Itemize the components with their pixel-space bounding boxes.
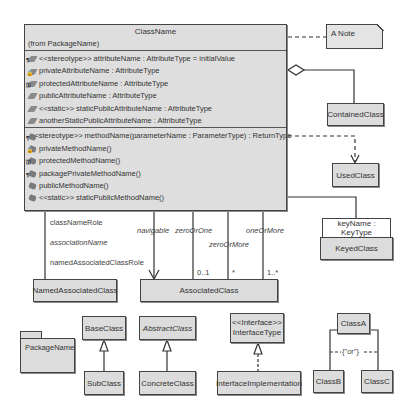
base-class-box[interactable]: BaseClass [82,316,126,340]
abstract-class-box[interactable]: AbstractClass [139,316,196,340]
method-row[interactable]: 🔒privateMethodName() [25,143,286,155]
class-a-box[interactable]: ClassA [337,313,370,334]
used-class-box[interactable]: UsedClass [332,163,379,187]
methods-section: ¶<<stereotype>> methodName(parameterName… [25,127,286,204]
interface-implementation-box[interactable]: InterfaceImplementation [217,371,301,395]
attribute-text: anotherStaticPublicAttributeName : Attri… [39,115,202,127]
associated-class-box[interactable]: AssociatedClass [140,279,278,302]
method-text: publicMethodName() [39,180,109,192]
interface-stereotype: <<Interface>> [232,318,282,328]
class-c-box[interactable]: ClassC [361,370,393,393]
attribute-row[interactable]: ⚿protectedAttributeName : AttributeType [25,78,286,90]
attribute-text: <<static>> staticPublicAttributeName : A… [39,103,212,115]
multiplicity-one-or-more: 1..* [267,268,278,277]
method-text: <<static>> staticPublicMethodName() [39,192,164,204]
method-text: <<stereotype>> methodName(parameterName … [30,130,291,142]
method-row[interactable]: <<static>> staticPublicMethodName() [25,192,286,204]
class-package: (from PackageName) [28,39,99,48]
method-row[interactable]: ⚿protectedMethodName() [25,155,286,167]
class-name: ClassName [25,27,286,36]
multiplicity-zero-or-more: * [232,268,235,277]
qualifier-box[interactable]: keyName : KeyType [322,218,391,238]
protected-attribute-icon: ⚿ [28,80,37,88]
attribute-text: protectedAttributeName : AttributeType [39,78,168,90]
method-row[interactable]: ¶<<stereotype>> methodName(parameterName… [25,130,286,142]
static-attribute-icon [28,117,37,125]
sub-class-box[interactable]: SubClass [84,371,124,395]
attribute-text: <<stereotype>> attributeName : Attribute… [39,53,235,65]
protected-method-icon: ⚿ [28,157,37,165]
static-attribute-icon [28,105,37,113]
package-box[interactable]: PackageName [20,338,75,373]
method-row[interactable]: ¶packagePrivateMethodName() [25,168,286,180]
method-text: packagePrivateMethodName() [39,168,141,180]
method-text: protectedMethodName() [39,155,120,167]
zero-or-more-label: zeroOrMore [209,240,249,249]
zero-or-one-label: zeroOrOne [175,226,212,235]
multiplicity-zero-or-one: 0..1 [197,268,210,277]
interface-name: InterfaceType [233,328,281,338]
attribute-row[interactable]: <<static>> staticPublicAttributeName : A… [25,103,286,115]
attribute-row[interactable]: ¶<<stereotype>> attributeName : Attribut… [25,53,286,65]
or-constraint-label: {"or"} [342,347,359,356]
public-method-icon [28,182,37,190]
method-text: privateMethodName() [39,143,112,155]
concrete-class-box[interactable]: ConcreteClass [139,371,196,395]
attribute-text: privateAttributeName : AttributeType [39,65,159,77]
contained-class-box[interactable]: ContainedClass [327,103,384,126]
keyed-class-box[interactable]: KeyedClass [320,237,393,260]
public-attribute-icon [28,92,37,100]
static-method-icon [28,194,37,202]
class-name-role-label: classNameRole [50,218,103,227]
main-class-box[interactable]: ClassName (from PackageName) ¶<<stereoty… [24,24,287,211]
named-associated-class-box[interactable]: NamedAssociatedClass [33,279,117,302]
class-b-box[interactable]: ClassB [313,370,344,393]
attribute-text: publicAttributeName : AttributeType [39,90,157,102]
attributes-section: ¶<<stereotype>> attributeName : Attribut… [25,51,286,127]
interface-box[interactable]: <<Interface>> InterfaceType [230,313,284,343]
method-row[interactable]: publicMethodName() [25,180,286,192]
class-header: ClassName (from PackageName) [25,25,286,51]
attribute-row[interactable]: anotherStaticPublicAttributeName : Attri… [25,115,286,127]
stereotype-attribute-icon: ¶ [28,55,37,63]
association-name-label: associationName [50,238,108,247]
attribute-row[interactable]: 🔒privateAttributeName : AttributeType [25,65,286,77]
one-or-more-label: oneOrMore [246,226,284,235]
private-attribute-icon: 🔒 [28,68,37,76]
attribute-row[interactable]: publicAttributeName : AttributeType [25,90,286,102]
navigable-label: navigable [137,226,169,235]
package-method-icon: ¶ [28,170,37,178]
private-method-icon: 🔒 [28,145,37,153]
target-role-label: namedAssociatedClassRole [50,258,144,267]
note[interactable]: A Note [326,24,383,49]
